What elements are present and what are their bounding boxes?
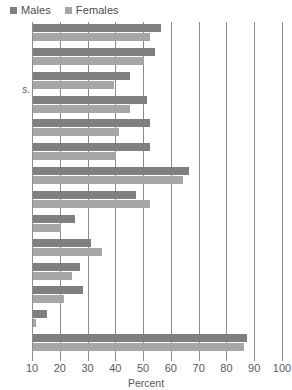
bar-females [33,81,114,89]
bar-females [33,152,116,160]
x-axis-tick-label: 50 [137,362,149,374]
bar-males [33,191,136,199]
bar-group [33,24,282,48]
x-axis-tick-label: 20 [54,362,66,374]
bar-females [33,248,102,256]
bar-females [33,200,150,208]
bar-group [33,215,282,239]
bar-females [33,224,61,232]
bar-group [33,263,282,287]
x-axis-tick [254,356,255,361]
x-axis-tick [199,356,200,361]
bar-females [33,33,150,41]
bar-males [33,310,47,318]
bar-males [33,215,75,223]
bar-chart: Males Females s. 102030405060708090100 P… [0,0,292,390]
chart-legend: Males Females [10,2,119,18]
x-axis-tick [143,356,144,361]
square-swatch-icon [65,7,72,14]
bar-group [33,119,282,143]
x-axis-tick-label: 70 [193,362,205,374]
plot-area [32,22,282,356]
bar-group [33,191,282,215]
bar-males [33,96,147,104]
bar-group [33,310,282,334]
bar-females [33,128,119,136]
bar-males [33,48,155,56]
legend-label-males: Males [21,5,51,16]
x-axis-tick-label: 40 [109,362,121,374]
bar-females [33,176,183,184]
bar-group [33,96,282,120]
bar-males [33,239,91,247]
x-axis-tick [88,356,89,361]
bar-group [33,143,282,167]
x-axis-tick [226,356,227,361]
x-axis-tick-label: 80 [220,362,232,374]
bar-rows [33,22,282,356]
bar-females [33,343,244,351]
x-axis-title: Percent [0,377,292,389]
x-axis-tick-label: 100 [273,362,291,374]
bar-group [33,334,282,358]
bar-males [33,334,247,342]
gridline [282,22,283,356]
x-axis-tick [115,356,116,361]
bar-females [33,105,130,113]
x-axis-tick-label: 60 [165,362,177,374]
legend-entry-females: Females [65,5,119,16]
bar-males [33,143,150,151]
x-axis-tick [32,356,33,361]
bar-females [33,272,72,280]
category-label-column: s. [0,22,30,356]
legend-entry-males: Males [10,5,51,16]
bar-females [33,295,64,303]
bar-group [33,239,282,263]
bar-group [33,48,282,72]
bar-group [33,286,282,310]
category-label-fragment: s. [22,84,30,95]
bar-males [33,119,150,127]
x-axis-tick-label: 90 [248,362,260,374]
bar-males [33,24,161,32]
x-axis-tick-label: 10 [26,362,38,374]
bar-group [33,167,282,191]
bar-males [33,286,83,294]
x-axis-tick [282,356,283,361]
x-axis-tick-labels: 102030405060708090100 [0,362,292,376]
x-axis-tick-label: 30 [81,362,93,374]
legend-label-females: Females [76,5,119,16]
x-axis-tick [171,356,172,361]
bar-females [33,57,144,65]
bar-group [33,72,282,96]
square-swatch-icon [10,7,17,14]
bar-males [33,72,130,80]
x-axis-tick [60,356,61,361]
bar-males [33,167,189,175]
bar-females [33,319,36,327]
bar-males [33,263,80,271]
